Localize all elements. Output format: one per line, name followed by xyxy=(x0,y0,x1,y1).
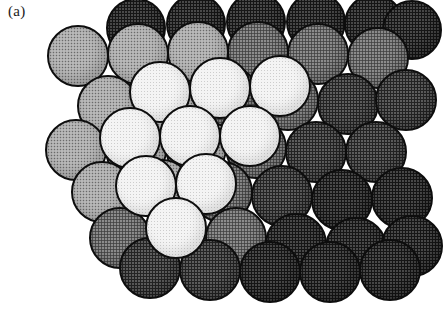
panel-label: (a) xyxy=(8,4,26,19)
sphere-white xyxy=(219,105,281,167)
sphere-darkest xyxy=(239,241,301,303)
sphere-darkest xyxy=(359,239,421,301)
sphere-white xyxy=(145,197,207,259)
sphere-darkest xyxy=(299,241,361,303)
